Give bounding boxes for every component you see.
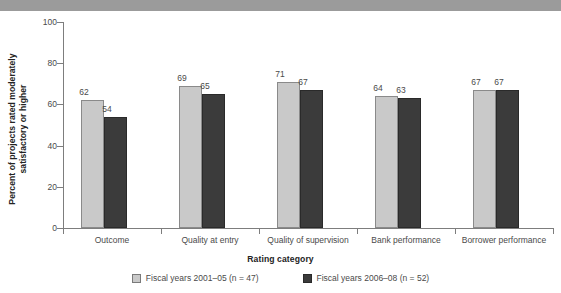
y-axis-title-line-1: Percent of projects rated moderately <box>7 53 17 204</box>
bar-bank-performance-2006-08[interactable] <box>398 98 421 228</box>
bar-bank-performance-2001-05[interactable] <box>375 96 398 228</box>
x-tick-mark-1 <box>161 229 162 234</box>
x-category-label-quality-at-entry: Quality at entry <box>161 236 259 245</box>
legend-label-fiscal-2006-08: Fiscal years 2006–08 (n = 52) <box>317 274 430 283</box>
value-label-outcome-2006-08: 54 <box>93 105 121 114</box>
x-tick-mark-2 <box>259 229 260 234</box>
chart-figure: 100 80 60 40 20 0 62 54 69 <box>0 0 561 293</box>
bar-quality-at-entry-2006-08[interactable] <box>202 94 225 228</box>
bar-quality-of-supervision-2006-08[interactable] <box>300 90 323 228</box>
x-axis-title: Rating category <box>0 254 561 264</box>
x-category-label-quality-of-supervision: Quality of supervision <box>259 236 357 245</box>
y-tick-label-100: 100 <box>33 18 57 27</box>
y-tick-label-20: 20 <box>33 183 57 192</box>
legend-item-fiscal-2006-08[interactable]: Fiscal years 2006–08 (n = 52) <box>303 274 430 283</box>
top-banner <box>0 0 561 11</box>
x-tick-mark-0 <box>63 229 64 234</box>
x-category-label-borrower-performance: Borrower performance <box>455 236 553 245</box>
value-label-bank-performance-2006-08: 63 <box>387 86 415 95</box>
y-tick-label-0: 0 <box>33 224 57 233</box>
value-label-borrower-performance-2006-08: 67 <box>485 78 513 87</box>
legend-swatch-dark-icon <box>303 274 312 283</box>
plot-area <box>63 22 553 228</box>
y-tick-label-60: 60 <box>33 100 57 109</box>
bar-quality-at-entry-2001-05[interactable] <box>179 86 202 228</box>
bar-outcome-2006-08[interactable] <box>104 117 127 228</box>
legend-label-fiscal-2001-05: Fiscal years 2001–05 (n = 47) <box>146 274 259 283</box>
x-tick-mark-4 <box>455 229 456 234</box>
y-axis-title: Percent of projects rated moderately sat… <box>7 34 29 224</box>
value-label-outcome-2001-05: 62 <box>70 88 98 97</box>
y-axis-title-line-2: satisfactory or higher <box>18 85 28 174</box>
x-category-label-outcome: Outcome <box>63 236 161 245</box>
x-category-label-bank-performance: Bank performance <box>357 236 455 245</box>
value-label-quality-at-entry-2006-08: 65 <box>191 82 219 91</box>
legend-swatch-light-icon <box>132 274 141 283</box>
legend-item-fiscal-2001-05[interactable]: Fiscal years 2001–05 (n = 47) <box>132 274 259 283</box>
chart-legend: Fiscal years 2001–05 (n = 47) Fiscal yea… <box>0 274 561 283</box>
bar-borrower-performance-2001-05[interactable] <box>473 90 496 228</box>
x-tick-mark-3 <box>357 229 358 234</box>
x-tick-mark-5 <box>553 229 554 234</box>
y-tick-label-80: 80 <box>33 59 57 68</box>
bar-quality-of-supervision-2001-05[interactable] <box>277 82 300 228</box>
value-label-quality-of-supervision-2006-08: 67 <box>289 78 317 87</box>
bar-borrower-performance-2006-08[interactable] <box>496 90 519 228</box>
x-axis-line <box>63 228 554 229</box>
bar-outcome-2001-05[interactable] <box>81 100 104 228</box>
y-tick-label-40: 40 <box>33 142 57 151</box>
